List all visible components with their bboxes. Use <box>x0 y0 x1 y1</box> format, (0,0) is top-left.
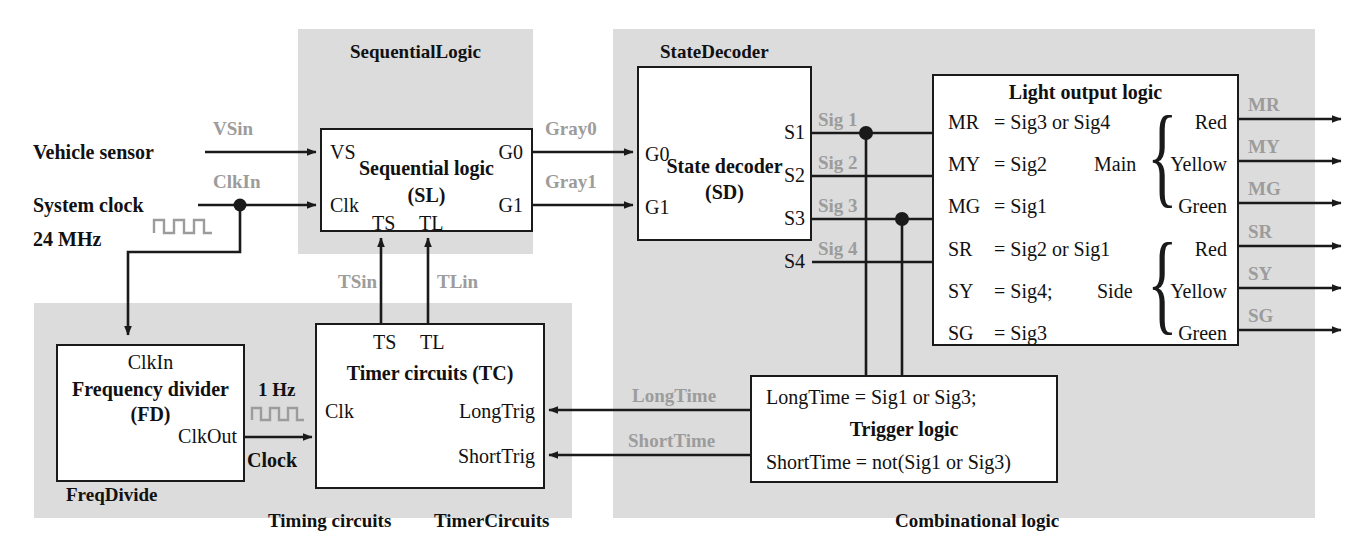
signal-label-sig4: Sig 4 <box>818 239 858 258</box>
sd-port-s3: S3 <box>784 208 805 228</box>
sd-port-s2: S2 <box>784 165 805 185</box>
signal-label-clkin: ClkIn <box>213 172 261 191</box>
lol-lamp-3: Red <box>1195 239 1227 259</box>
signal-label-1hz: 1 Hz <box>258 380 295 399</box>
trigger-title: Trigger logic <box>752 419 1056 439</box>
input-label-system-clock: System clock <box>33 195 144 215</box>
light-output-logic-box[interactable]: Light output logic MR = Sig3 or Sig4 MY … <box>932 74 1239 346</box>
lol-lamp-2: Green <box>1178 196 1227 216</box>
input-label-vehicle-sensor: Vehicle sensor <box>33 142 154 162</box>
signal-label-sig2: Sig 2 <box>818 153 858 172</box>
signal-label-gray1: Gray1 <box>545 172 597 191</box>
lol-eq-name-2: MG <box>948 196 980 216</box>
sl-title-line1: Sequential logic <box>322 158 531 178</box>
lol-eq-body-4: = Sig4; <box>994 281 1053 301</box>
region-label-combinational-logic: Combinational logic <box>895 511 1059 530</box>
signal-label-gray0: Gray0 <box>545 119 597 138</box>
tc-port-clk: Clk <box>325 401 354 421</box>
output-label-sy: SY <box>1248 264 1272 283</box>
input-label-clock-frequency: 24 MHz <box>33 229 101 249</box>
region-label-freqdivide: FreqDivide <box>66 485 157 504</box>
tc-port-tl: TL <box>420 332 444 352</box>
lol-eq-name-3: SR <box>948 239 972 259</box>
sd-port-s4: S4 <box>784 251 805 271</box>
lol-eq-name-1: MY <box>948 154 980 174</box>
signal-label-clock: Clock <box>247 450 297 470</box>
output-label-mr: MR <box>1248 95 1280 114</box>
signal-label-longtime: LongTime <box>632 386 716 405</box>
lol-lamp-4: Yellow <box>1170 281 1227 301</box>
trigger-logic-box[interactable]: LongTime = Sig1 or Sig3; Trigger logic S… <box>750 375 1058 483</box>
fd-port-clkout: ClkOut <box>178 426 237 446</box>
state-decoder-box[interactable]: G0 G1 State decoder (SD) S1 S2 S3 S4 <box>637 66 812 241</box>
lol-group-main: Main <box>1094 154 1136 174</box>
sl-port-ts: TS <box>372 213 395 233</box>
lol-lamp-5: Green <box>1178 323 1227 343</box>
junction-dot-sig3 <box>895 212 909 226</box>
trigger-eq-short: ShortTime = not(Sig1 or Sig3) <box>766 452 1011 472</box>
signal-label-sig1: Sig 1 <box>818 110 858 129</box>
region-label-sequential-logic: SequentialLogic <box>298 42 533 61</box>
region-label-timing-circuits: Timing circuits <box>268 511 391 530</box>
output-label-sr: SR <box>1248 222 1272 241</box>
lol-eq-body-0: = Sig3 or Sig4 <box>994 112 1110 132</box>
sd-port-s1: S1 <box>784 122 805 142</box>
signal-label-shorttime: ShortTime <box>628 431 715 450</box>
fd-title-line2: (FD) <box>58 404 243 424</box>
lol-lamp-1: Yellow <box>1170 154 1227 174</box>
lol-eq-name-4: SY <box>948 281 974 301</box>
signal-label-tsin: TSin <box>338 272 377 291</box>
output-label-my: MY <box>1248 137 1280 156</box>
lol-eq-body-5: = Sig3 <box>994 323 1047 343</box>
tc-title: Timer circuits (TC) <box>317 363 543 383</box>
sequential-logic-box[interactable]: VS Clk G0 G1 Sequential logic (SL) TS TL <box>320 128 533 232</box>
sl-port-tl: TL <box>419 213 443 233</box>
fd-title-line1: Frequency divider <box>58 379 243 399</box>
output-label-mg: MG <box>1248 179 1281 198</box>
square-wave-icon-divided-clock <box>252 408 304 420</box>
region-label-timercircuits: TimerCircuits <box>434 511 549 530</box>
square-wave-icon-system-clock <box>154 220 212 233</box>
lol-eq-name-0: MR <box>948 112 979 132</box>
lol-eq-name-5: SG <box>948 323 974 343</box>
lol-lamp-0: Red <box>1195 112 1227 132</box>
block-diagram-canvas: SequentialLogic StateDecoder FreqDivide … <box>0 0 1371 553</box>
output-label-sg: SG <box>1248 306 1273 325</box>
timer-circuits-box[interactable]: TS TL Timer circuits (TC) Clk LongTrig S… <box>315 323 545 489</box>
tc-port-ts: TS <box>373 332 396 352</box>
frequency-divider-box[interactable]: ClkIn Frequency divider (FD) ClkOut <box>56 344 245 482</box>
lol-eq-body-2: = Sig1 <box>994 196 1047 216</box>
lol-title: Light output logic <box>934 82 1237 102</box>
lol-group-side: Side <box>1097 281 1133 301</box>
signal-label-vsin: VSin <box>213 119 253 138</box>
region-label-state-decoder: StateDecoder <box>660 42 769 61</box>
trigger-eq-long: LongTime = Sig1 or Sig3; <box>766 387 977 407</box>
fd-port-clkin: ClkIn <box>58 352 243 372</box>
signal-label-tlin: TLin <box>437 272 478 291</box>
sl-title-line2: (SL) <box>322 185 531 205</box>
junction-dot-clock <box>234 199 247 212</box>
junction-dot-sig1 <box>859 126 873 140</box>
tc-port-longtrig: LongTrig <box>459 401 535 421</box>
lol-eq-body-1: = Sig2 <box>994 154 1047 174</box>
tc-port-shorttrig: ShortTrig <box>458 446 535 466</box>
lol-eq-body-3: = Sig2 or Sig1 <box>994 239 1110 259</box>
signal-label-sig3: Sig 3 <box>818 196 858 215</box>
